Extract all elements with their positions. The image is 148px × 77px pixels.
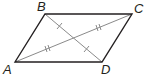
vertex-label-b: B	[37, 0, 46, 14]
vertex-label-a: A	[2, 62, 12, 77]
vertex-label-d: D	[101, 62, 110, 77]
diagonal-bd	[45, 14, 102, 62]
parallelogram-diagram: B C A D	[0, 0, 148, 77]
vertex-label-c: C	[134, 1, 144, 16]
